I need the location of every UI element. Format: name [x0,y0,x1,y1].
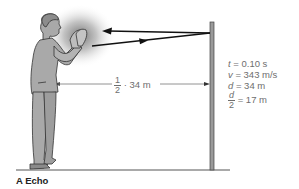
echo-diagram: 1 2 · 34 m t = 0.10 s v = 343 m/s d = 34… [0,0,299,189]
value-half-distance: = 17 m [235,94,267,105]
reflected-arrow-icon [102,28,210,35]
fraction-denominator-2: 2 [228,101,235,110]
equation-half-distance: d 2 = 17 m [228,91,267,110]
distance-value: · 34 m [124,79,151,90]
value-t: = 0.10 s [231,58,268,69]
equation-velocity: v = 343 m/s [228,69,277,80]
figure-caption: A Echo [16,175,48,186]
distance-label: 1 2 · 34 m [112,76,153,95]
wall-icon [210,22,214,170]
value-d: = 34 m [233,80,265,91]
value-v: = 343 m/s [233,69,278,80]
distance-fraction: 1 2 [114,76,121,95]
equation-time: t = 0.10 s [228,58,267,69]
fraction-denominator: 2 [114,86,121,95]
half-distance-fraction: d 2 [228,91,235,110]
